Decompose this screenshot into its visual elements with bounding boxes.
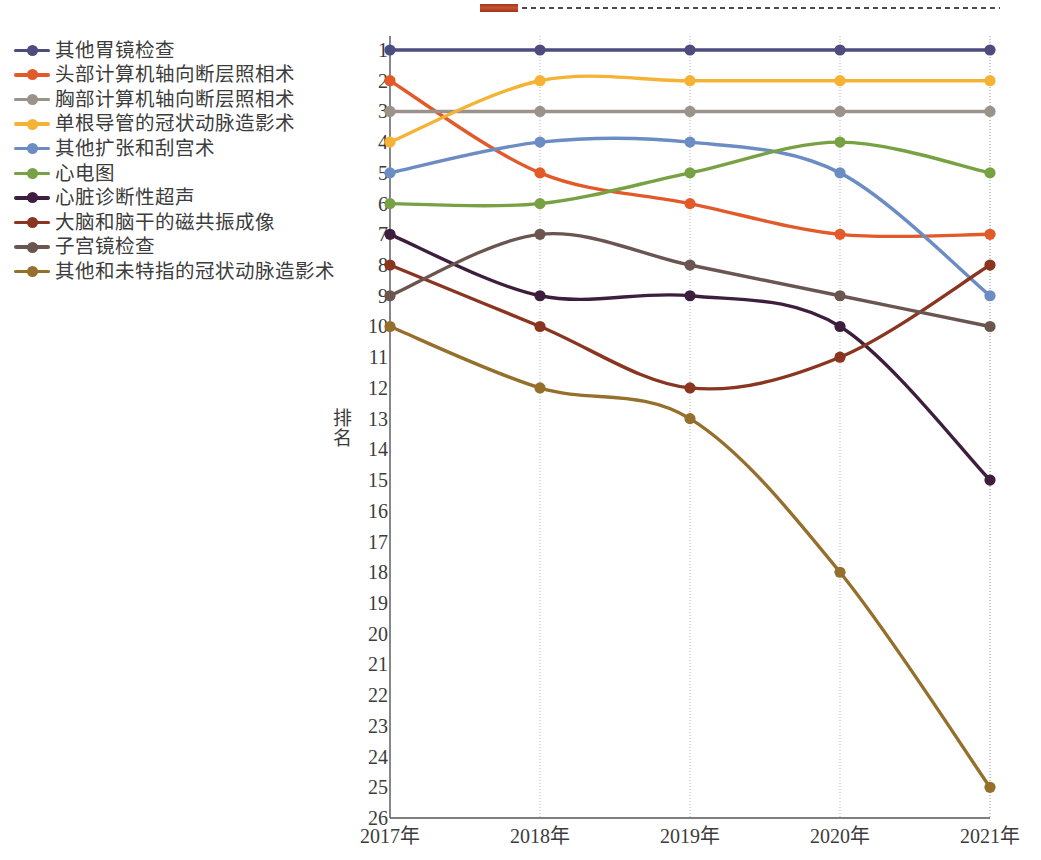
data-point-marker[interactable]: [834, 290, 845, 301]
data-point-marker[interactable]: [534, 382, 545, 393]
series-line: [390, 326, 990, 787]
data-point-marker[interactable]: [534, 167, 545, 178]
x-axis-tick-label: 2020年: [795, 826, 885, 846]
data-point-marker[interactable]: [834, 229, 845, 240]
series-line: [390, 265, 990, 389]
data-point-marker[interactable]: [834, 44, 845, 55]
data-point-marker[interactable]: [384, 198, 395, 209]
bottom-cropped-text: [60, 849, 980, 860]
data-point-marker[interactable]: [684, 137, 695, 148]
data-point-marker[interactable]: [834, 321, 845, 332]
data-point-marker[interactable]: [984, 106, 995, 117]
x-axis-tick-label: 2019年: [645, 826, 735, 846]
data-point-marker[interactable]: [534, 75, 545, 86]
data-point-marker[interactable]: [384, 106, 395, 117]
data-point-marker[interactable]: [534, 106, 545, 117]
data-point-marker[interactable]: [684, 290, 695, 301]
data-point-marker[interactable]: [384, 137, 395, 148]
data-point-marker[interactable]: [984, 290, 995, 301]
data-point-marker[interactable]: [834, 167, 845, 178]
data-point-marker[interactable]: [534, 290, 545, 301]
data-point-marker[interactable]: [684, 44, 695, 55]
data-point-marker[interactable]: [834, 137, 845, 148]
data-point-marker[interactable]: [684, 106, 695, 117]
data-point-marker[interactable]: [384, 75, 395, 86]
data-point-marker[interactable]: [684, 75, 695, 86]
data-point-marker[interactable]: [384, 290, 395, 301]
data-point-marker[interactable]: [834, 106, 845, 117]
plot-area: [0, 0, 1041, 860]
data-point-marker[interactable]: [534, 198, 545, 209]
data-point-marker[interactable]: [684, 198, 695, 209]
data-point-marker[interactable]: [984, 167, 995, 178]
data-point-marker[interactable]: [384, 229, 395, 240]
data-point-marker[interactable]: [984, 782, 995, 793]
x-axis-tick-label: 2017年: [345, 826, 435, 846]
data-point-marker[interactable]: [984, 321, 995, 332]
data-point-marker[interactable]: [684, 167, 695, 178]
data-point-marker[interactable]: [984, 229, 995, 240]
data-point-marker[interactable]: [384, 167, 395, 178]
data-point-marker[interactable]: [534, 44, 545, 55]
data-point-marker[interactable]: [534, 137, 545, 148]
series-line: [390, 138, 990, 295]
data-point-marker[interactable]: [834, 567, 845, 578]
data-point-marker[interactable]: [684, 259, 695, 270]
data-point-marker[interactable]: [984, 75, 995, 86]
data-point-marker[interactable]: [684, 413, 695, 424]
data-point-marker[interactable]: [534, 229, 545, 240]
data-point-marker[interactable]: [684, 382, 695, 393]
data-point-marker[interactable]: [384, 259, 395, 270]
data-point-marker[interactable]: [984, 474, 995, 485]
data-point-marker[interactable]: [384, 44, 395, 55]
data-point-marker[interactable]: [384, 321, 395, 332]
x-axis-tick-label: 2018年: [495, 826, 585, 846]
x-axis-tick-label: 2021年: [945, 826, 1035, 846]
data-point-marker[interactable]: [984, 259, 995, 270]
data-point-marker[interactable]: [984, 44, 995, 55]
data-point-marker[interactable]: [534, 321, 545, 332]
data-point-marker[interactable]: [834, 75, 845, 86]
rank-line-chart: 排名 1234567891011121314151617181920212223…: [0, 0, 1041, 860]
data-point-marker[interactable]: [834, 352, 845, 363]
